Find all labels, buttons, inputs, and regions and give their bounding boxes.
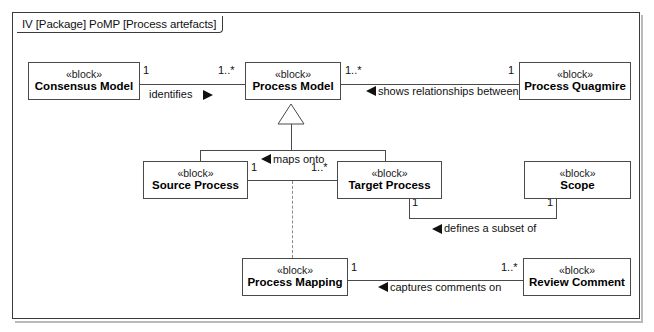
mult-process-model-right: 1..*: [345, 64, 362, 76]
generalization-stem: [291, 124, 292, 150]
block-review-comment[interactable]: «block» Review Comment: [523, 258, 631, 296]
block-process-model[interactable]: «block» Process Model: [245, 62, 341, 100]
generalization-triangle-icon: [277, 103, 305, 125]
assoc-line-defines-subset-bottom: [409, 218, 557, 219]
diagram-canvas: IV [Package] PoMP [Process artefacts] 1 …: [0, 0, 654, 332]
block-name: Review Comment: [529, 276, 625, 289]
block-consensus-model[interactable]: «block» Consensus Model: [28, 62, 140, 100]
block-stereotype: «block»: [277, 265, 313, 277]
mult-consensus-right: 1: [143, 64, 149, 76]
block-target-process[interactable]: «block» Target Process: [337, 161, 442, 199]
block-source-process[interactable]: «block» Source Process: [143, 161, 248, 199]
block-name: Consensus Model: [35, 80, 133, 93]
block-scope[interactable]: «block» Scope: [524, 161, 631, 199]
block-stereotype: «block»: [557, 69, 593, 81]
block-stereotype: «block»: [275, 69, 311, 81]
rel-label-captures-comments: captures comments on: [390, 281, 501, 293]
mult-source-right: 1: [251, 161, 257, 173]
rel-label-shows-relationships: shows relationships between: [378, 85, 519, 97]
package-title-tab: IV [Package] PoMP [Process artefacts]: [17, 16, 223, 33]
arrowhead-left-captures-comments: [378, 282, 388, 292]
rel-label-identifies: identifies: [149, 88, 192, 100]
block-name: Source Process: [152, 179, 239, 192]
block-process-mapping[interactable]: «block» Process Mapping: [242, 258, 348, 296]
block-name: Process Mapping: [247, 276, 342, 289]
assoc-line-identifies: [140, 84, 245, 85]
generalization-fork-bar: [200, 150, 386, 151]
block-stereotype: «block»: [177, 168, 213, 180]
block-name: Target Process: [348, 179, 430, 192]
arrowhead-left-shows-relationships: [366, 86, 376, 96]
mult-mapping-right: 1: [351, 261, 357, 273]
frame-shadow-right: [641, 15, 643, 321]
block-stereotype: «block»: [559, 168, 595, 180]
block-name: Scope: [560, 179, 595, 192]
block-stereotype: «block»: [371, 168, 407, 180]
mult-review-left: 1..*: [501, 261, 518, 273]
block-process-quagmire[interactable]: «block» Process Quagmire: [519, 62, 631, 100]
block-stereotype: «block»: [66, 69, 102, 81]
arrowhead-left-maps-onto: [261, 154, 271, 164]
rel-label-maps-onto: maps onto: [273, 153, 324, 165]
rel-label-defines-subset: defines a subset of: [444, 222, 536, 234]
block-name: Process Model: [252, 80, 333, 93]
frame-shadow-bottom: [15, 321, 643, 323]
dependency-line-process-mapping: [292, 181, 293, 258]
mult-quagmire-left: 1: [508, 64, 514, 76]
mult-process-model-left: 1..*: [218, 64, 235, 76]
arrowhead-right-identifies: [203, 90, 213, 100]
block-stereotype: «block»: [559, 265, 595, 277]
arrowhead-left-defines-subset: [432, 224, 442, 234]
package-title-text: IV [Package] PoMP [Process artefacts]: [22, 18, 216, 30]
block-name: Process Quagmire: [524, 80, 626, 93]
